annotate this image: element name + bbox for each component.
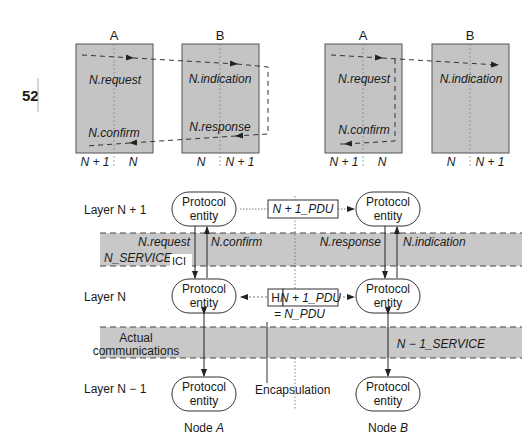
svg-text:Protocol: Protocol: [182, 195, 226, 209]
svg-text:entity: entity: [374, 209, 403, 223]
n-response-label: N.response: [320, 235, 382, 249]
entity-a-middle: Protocol entity: [172, 279, 236, 313]
svg-text:entity: entity: [190, 209, 219, 223]
encapsulation-label: Encapsulation: [255, 383, 330, 397]
svg-text:Protocol: Protocol: [366, 195, 410, 209]
confirmed-service-diagram: A B N.request N.confirm N.indication N.r…: [76, 28, 268, 169]
actual-communications-label: Actual: [119, 331, 152, 345]
svg-text:Protocol: Protocol: [366, 282, 410, 296]
layer-n-plus-1-label: Layer N + 1: [84, 203, 147, 217]
n-plus-1-label: N + 1: [225, 155, 254, 169]
n-indication-label: N.indication: [189, 72, 252, 86]
node-b-caption: Node B: [368, 421, 408, 434]
n-indication-label: N.indication: [403, 235, 466, 249]
layer-n-minus-1-label: Layer N − 1: [84, 382, 147, 396]
entity-b-lower: Protocol entity: [356, 377, 420, 411]
header-label: H: [271, 291, 280, 305]
n-request-label: N.request: [138, 235, 191, 249]
n-minus-1-service-label: N − 1_SERVICE: [397, 337, 486, 351]
n-service-label: N_SERVICE: [104, 251, 173, 265]
n-response-label: N.response: [189, 120, 251, 134]
ici-label: ICI: [172, 255, 186, 267]
svg-text:entity: entity: [374, 296, 403, 310]
n-request-label: N.request: [89, 73, 142, 87]
n-plus-1-label: N + 1: [475, 155, 504, 169]
node-a-label: A: [110, 28, 119, 43]
svg-text:Protocol: Protocol: [182, 282, 226, 296]
node-b-label: B: [216, 28, 225, 43]
n-plus-1-label: N + 1: [329, 155, 358, 169]
n-confirm-label: N.confirm: [88, 126, 139, 140]
svg-text:entity: entity: [190, 394, 219, 408]
entity-a-upper: Protocol entity: [172, 192, 236, 226]
n-indication-label: N.indication: [440, 72, 503, 86]
node-b-panel: [182, 44, 259, 153]
n-label: N: [447, 155, 456, 169]
entity-b-middle: Protocol entity: [356, 279, 420, 313]
n-confirm-label: N.confirm: [338, 123, 389, 137]
n-request-label: N.request: [338, 72, 391, 86]
svg-text:Protocol: Protocol: [366, 380, 410, 394]
n-confirm-label: N.confirm: [211, 235, 262, 249]
osi-service-diagram: 52 A B N.request N.confirm N.indication …: [0, 0, 524, 434]
node-a-caption: Node A: [184, 421, 224, 434]
n-label: N: [129, 155, 138, 169]
node-b-label: B: [466, 28, 475, 43]
entity-b-upper: Protocol entity: [356, 192, 420, 226]
page-number: 52: [22, 87, 39, 104]
svg-text:entity: entity: [190, 296, 219, 310]
entity-a-lower: Protocol entity: [172, 377, 236, 411]
actual-communications-label: communications: [93, 344, 180, 358]
locally-confirmed-service-diagram: A B N.request N.confirm N.indication N +…: [325, 28, 509, 169]
svg-text:entity: entity: [374, 394, 403, 408]
n-plus-1-label: N + 1: [80, 155, 109, 169]
n-plus-1-pdu-label: N + 1_PDU: [280, 291, 341, 305]
node-a-label: A: [359, 28, 368, 43]
layer-n-label: Layer N: [84, 290, 126, 304]
n-label: N: [378, 155, 387, 169]
n-label: N: [197, 155, 206, 169]
svg-text:Protocol: Protocol: [182, 380, 226, 394]
n-plus-1-pdu-label: N + 1_PDU: [272, 202, 333, 216]
n-pdu-label: = N_PDU: [274, 307, 325, 321]
node-b-panel: [432, 44, 509, 153]
